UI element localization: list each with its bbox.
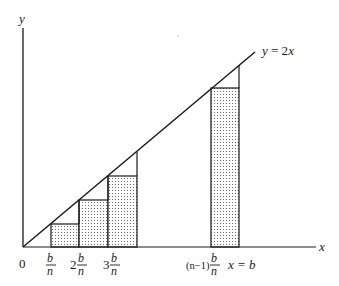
rect-2 xyxy=(79,200,108,247)
svg-text:n: n xyxy=(47,264,53,278)
svg-text:b: b xyxy=(111,251,117,265)
riemann-sum-diagram: y x 0 y = 2x b n 2 b n 3 b n (n−1) xyxy=(0,0,339,286)
rect-3 xyxy=(108,176,137,247)
rect-last xyxy=(211,88,239,247)
svg-text:3: 3 xyxy=(103,257,110,272)
tick-label-3: 3 b n xyxy=(103,251,120,278)
svg-text:2: 2 xyxy=(70,257,77,272)
diagram-canvas: y x 0 y = 2x b n 2 b n 3 b n (n−1) xyxy=(0,0,339,286)
y-axis-label: y xyxy=(17,11,25,26)
tick-label-last: (n−1) b n xyxy=(186,251,220,278)
svg-text:b: b xyxy=(211,251,217,265)
origin-label: 0 xyxy=(19,256,26,271)
line-label: y = 2x xyxy=(260,43,294,58)
svg-text:n: n xyxy=(211,264,217,278)
svg-text:b: b xyxy=(47,251,53,265)
stray-dot xyxy=(177,35,178,36)
tick-label-1: b n xyxy=(46,251,56,278)
end-label-x-equals-b: x = b xyxy=(227,257,256,272)
svg-text:n: n xyxy=(111,264,117,278)
x-axis-label: x xyxy=(318,239,325,254)
svg-text:n: n xyxy=(78,264,84,278)
svg-text:(n−1): (n−1) xyxy=(186,260,210,272)
tick-label-2: 2 b n xyxy=(70,251,87,278)
svg-text:b: b xyxy=(78,251,84,265)
rect-1 xyxy=(51,224,79,247)
